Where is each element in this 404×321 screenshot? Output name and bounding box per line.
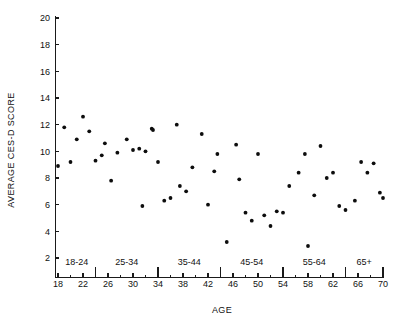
x-axis-tick-labels: 1822263034384246505458626670 (53, 279, 388, 289)
data-point (131, 148, 135, 152)
y-axis-title: AVERAGE CES-D SCORE (6, 92, 16, 207)
data-point (325, 176, 329, 180)
y-tick-label-10: 10 (40, 147, 50, 157)
data-point (303, 152, 307, 156)
data-point (62, 125, 66, 129)
y-axis-tick-labels: 2468101214161820 (40, 13, 50, 263)
data-point (140, 204, 144, 208)
data-point (344, 208, 348, 212)
data-point (103, 141, 107, 145)
data-point (81, 115, 85, 119)
data-points (56, 115, 385, 248)
data-point (353, 199, 357, 203)
data-point (56, 164, 60, 168)
age-group-label-55-64: 55-64 (303, 257, 326, 267)
data-point (115, 151, 119, 155)
data-point (190, 165, 194, 169)
age-group-label-65+: 65+ (357, 257, 372, 267)
x-tick-label-30: 30 (128, 279, 138, 289)
x-tick-label-70: 70 (378, 279, 388, 289)
data-point (200, 132, 204, 136)
y-tick-label-16: 16 (40, 67, 50, 77)
x-tick-label-26: 26 (103, 279, 113, 289)
age-group-label-25-34: 25-34 (115, 257, 138, 267)
x-tick-label-38: 38 (178, 279, 188, 289)
data-point (365, 171, 369, 175)
data-point (306, 244, 310, 248)
x-tick-label-50: 50 (253, 279, 263, 289)
data-point (378, 191, 382, 195)
x-tick-label-66: 66 (353, 279, 363, 289)
data-point (125, 137, 129, 141)
y-tick-label-6: 6 (45, 200, 50, 210)
data-point (262, 213, 266, 217)
data-point (87, 129, 91, 133)
tick-marks (55, 18, 383, 277)
data-point (94, 159, 98, 163)
x-tick-label-18: 18 (53, 279, 63, 289)
y-tick-label-18: 18 (40, 40, 50, 50)
x-tick-label-46: 46 (228, 279, 238, 289)
x-tick-label-54: 54 (278, 279, 288, 289)
data-point (269, 224, 273, 228)
chart-figure: 1822263034384246505458626670 24681012141… (0, 0, 404, 321)
data-point (359, 160, 363, 164)
x-tick-label-62: 62 (328, 279, 338, 289)
x-axis-title: AGE (212, 305, 232, 315)
x-tick-label-58: 58 (303, 279, 313, 289)
data-point (312, 193, 316, 197)
data-point (175, 123, 179, 127)
data-point (256, 152, 260, 156)
x-tick-label-22: 22 (78, 279, 88, 289)
data-point (151, 128, 155, 132)
x-tick-label-42: 42 (203, 279, 213, 289)
data-point (75, 137, 79, 141)
scatter-plot: 1822263034384246505458626670 24681012141… (0, 0, 404, 321)
data-point (297, 171, 301, 175)
data-point (162, 199, 166, 203)
data-point (275, 209, 279, 213)
data-point (319, 144, 323, 148)
data-point (337, 204, 341, 208)
y-tick-label-14: 14 (40, 93, 50, 103)
data-point (372, 161, 376, 165)
data-point (215, 152, 219, 156)
y-tick-label-4: 4 (45, 227, 50, 237)
data-point (184, 189, 188, 193)
data-point (69, 160, 73, 164)
age-group-labels: 18-2425-3435-4445-5455-6465+ (65, 257, 372, 267)
data-point (225, 240, 229, 244)
x-tick-label-34: 34 (153, 279, 163, 289)
data-point (178, 184, 182, 188)
data-point (281, 211, 285, 215)
y-tick-label-20: 20 (40, 13, 50, 23)
age-group-label-18-24: 18-24 (65, 257, 88, 267)
data-point (109, 179, 113, 183)
data-point (331, 171, 335, 175)
data-point (100, 153, 104, 157)
data-point (169, 196, 173, 200)
age-group-label-45-54: 45-54 (240, 257, 263, 267)
data-point (206, 203, 210, 207)
data-point (144, 149, 148, 153)
y-tick-label-2: 2 (45, 253, 50, 263)
age-group-label-35-44: 35-44 (178, 257, 201, 267)
data-point (237, 177, 241, 181)
data-point (287, 184, 291, 188)
y-tick-label-8: 8 (45, 173, 50, 183)
data-point (250, 219, 254, 223)
data-point (234, 143, 238, 147)
data-point (137, 147, 141, 151)
y-tick-label-12: 12 (40, 120, 50, 130)
data-point (156, 160, 160, 164)
data-point (244, 211, 248, 215)
data-point (381, 196, 385, 200)
axes (55, 16, 384, 277)
data-point (212, 169, 216, 173)
